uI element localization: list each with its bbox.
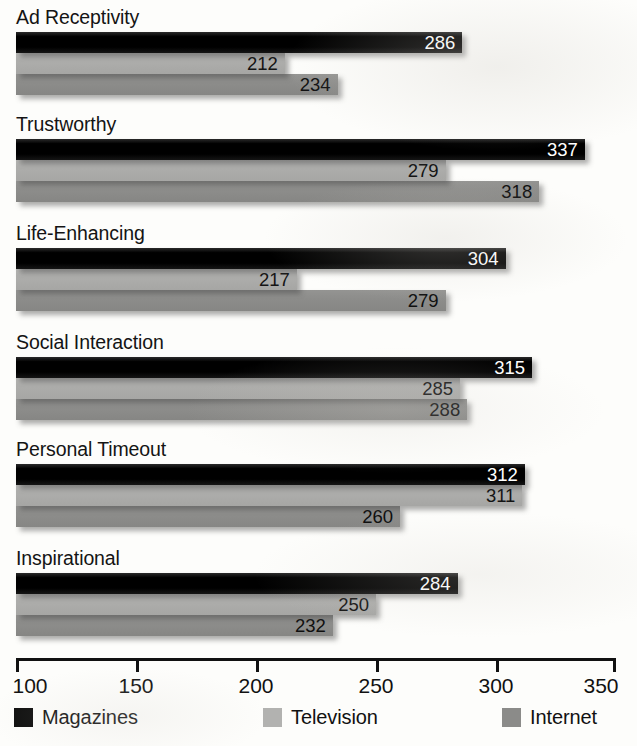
bar-value-label: 234: [300, 75, 331, 94]
bar-magazines[interactable]: 312: [16, 464, 525, 485]
axis-tick-label: 250: [358, 674, 393, 698]
bar-magazines[interactable]: 284: [16, 573, 458, 594]
axis-tick-label: 300: [478, 674, 513, 698]
bar-value-label: 337: [547, 140, 578, 159]
bar-row: 286: [16, 32, 616, 53]
axis-tick: [16, 658, 19, 672]
bar-television[interactable]: 250: [16, 594, 376, 615]
legend-item-television[interactable]: Television: [263, 706, 378, 729]
bar-row: 315: [16, 357, 616, 378]
group-label: Ad Receptivity: [16, 6, 139, 29]
bar-row: 288: [16, 399, 616, 420]
group-label: Social Interaction: [16, 331, 164, 354]
axis-tick: [136, 658, 139, 672]
chart-legend: MagazinesTelevisionInternet: [0, 706, 637, 740]
television-swatch: [263, 708, 282, 727]
bar-television[interactable]: 279: [16, 160, 446, 181]
bar-row: 304: [16, 248, 616, 269]
bar-row: 311: [16, 485, 616, 506]
bar-television[interactable]: 217: [16, 269, 297, 290]
group-label: Personal Timeout: [16, 438, 166, 461]
axis-tick: [256, 658, 259, 672]
bar-row: 217: [16, 269, 616, 290]
bar-internet[interactable]: 318: [16, 181, 539, 202]
bar-magazines[interactable]: 315: [16, 357, 532, 378]
bar-value-label: 232: [295, 616, 326, 635]
bar-value-label: 279: [408, 161, 439, 180]
x-axis-line: [16, 658, 616, 661]
bar-internet[interactable]: 279: [16, 290, 446, 311]
bar-television[interactable]: 212: [16, 53, 285, 74]
bar-internet[interactable]: 260: [16, 506, 400, 527]
bar-internet[interactable]: 288: [16, 399, 467, 420]
axis-tick-label: 200: [238, 674, 273, 698]
bar-row: 212: [16, 53, 616, 74]
bar-value-label: 286: [425, 33, 456, 52]
bar-row: 318: [16, 181, 616, 202]
group-label: Life-Enhancing: [16, 222, 145, 245]
bar-internet[interactable]: 234: [16, 74, 338, 95]
bar-value-label: 315: [494, 358, 525, 377]
bar-value-label: 217: [259, 270, 290, 289]
magazines-swatch: [14, 708, 33, 727]
group-label: Trustworthy: [16, 113, 116, 136]
bar-value-label: 212: [247, 54, 278, 73]
legend-label: Magazines: [42, 706, 138, 729]
group-label: Inspirational: [16, 547, 120, 570]
bar-magazines[interactable]: 337: [16, 139, 585, 160]
bar-magazines[interactable]: 304: [16, 248, 506, 269]
bar-value-label: 312: [487, 465, 518, 484]
bar-value-label: 311: [486, 486, 516, 505]
bar-row: 234: [16, 74, 616, 95]
bar-television[interactable]: 285: [16, 378, 460, 399]
bar-row: 337: [16, 139, 616, 160]
bar-value-label: 304: [468, 249, 499, 268]
bar-magazines[interactable]: 286: [16, 32, 462, 53]
bar-television[interactable]: 311: [16, 485, 522, 506]
bar-value-label: 318: [501, 182, 532, 201]
bar-row: 279: [16, 160, 616, 181]
bar-row: 312: [16, 464, 616, 485]
bar-internet[interactable]: 232: [16, 615, 333, 636]
bar-value-label: 250: [338, 595, 369, 614]
bar-value-label: 284: [420, 574, 451, 593]
legend-item-internet[interactable]: Internet: [502, 706, 597, 729]
x-axis: [0, 658, 637, 672]
internet-swatch: [502, 708, 521, 727]
legend-label: Television: [291, 706, 378, 729]
bar-value-label: 279: [408, 291, 439, 310]
bar-value-label: 288: [429, 400, 460, 419]
bar-row: 260: [16, 506, 616, 527]
grouped-horizontal-bar-chart: Ad Receptivity286212234Trustworthy337279…: [0, 0, 637, 746]
axis-tick: [613, 658, 616, 672]
bar-value-label: 285: [422, 379, 453, 398]
bar-row: 232: [16, 615, 616, 636]
bar-row: 250: [16, 594, 616, 615]
axis-tick: [496, 658, 499, 672]
bar-row: 284: [16, 573, 616, 594]
axis-tick-label: 350: [583, 674, 618, 698]
axis-tick-label: 100: [12, 674, 47, 698]
bar-row: 285: [16, 378, 616, 399]
bar-value-label: 260: [362, 507, 393, 526]
legend-label: Internet: [530, 706, 597, 729]
axis-tick-label: 150: [118, 674, 153, 698]
bar-row: 279: [16, 290, 616, 311]
legend-item-magazines[interactable]: Magazines: [14, 706, 138, 729]
axis-tick: [376, 658, 379, 672]
